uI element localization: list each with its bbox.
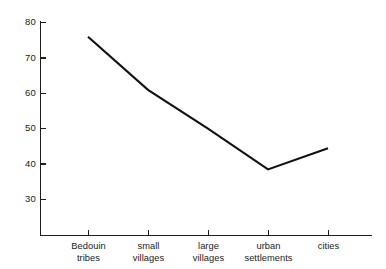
y-tick-label-70: 70 (14, 53, 36, 63)
data-series-line (88, 37, 328, 170)
x-tick-label-line1: cities (289, 241, 369, 253)
x-tick-label-line2: settlements (229, 253, 309, 265)
y-tick-label-80: 80 (14, 17, 36, 27)
y-tick-label-60: 60 (14, 88, 36, 98)
x-tick-label-cities: cities (289, 241, 369, 253)
y-tick-label-50: 50 (14, 123, 36, 133)
y-tick-label-40: 40 (14, 159, 36, 169)
plot-area (0, 0, 386, 269)
y-tick-label-30: 30 (14, 194, 36, 204)
line-chart-figure: 80 70 60 50 40 30 Bedouin tribes small v… (0, 0, 386, 269)
